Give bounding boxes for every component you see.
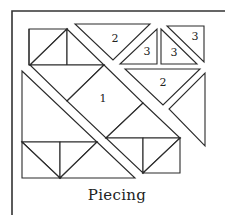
piece-label-3-middle: 3 — [171, 46, 178, 59]
piece-label-2-right: 2 — [160, 76, 167, 89]
piece-label-3-right: 3 — [192, 30, 199, 43]
quilt-piecing-diagram: 2 3 3 3 1 2 Piecing — [0, 0, 225, 215]
piece-label-3-left: 3 — [144, 45, 151, 58]
piece-label-1: 1 — [100, 92, 107, 105]
piece-label-top-2: 2 — [112, 32, 119, 45]
caption: Piecing — [88, 186, 146, 204]
